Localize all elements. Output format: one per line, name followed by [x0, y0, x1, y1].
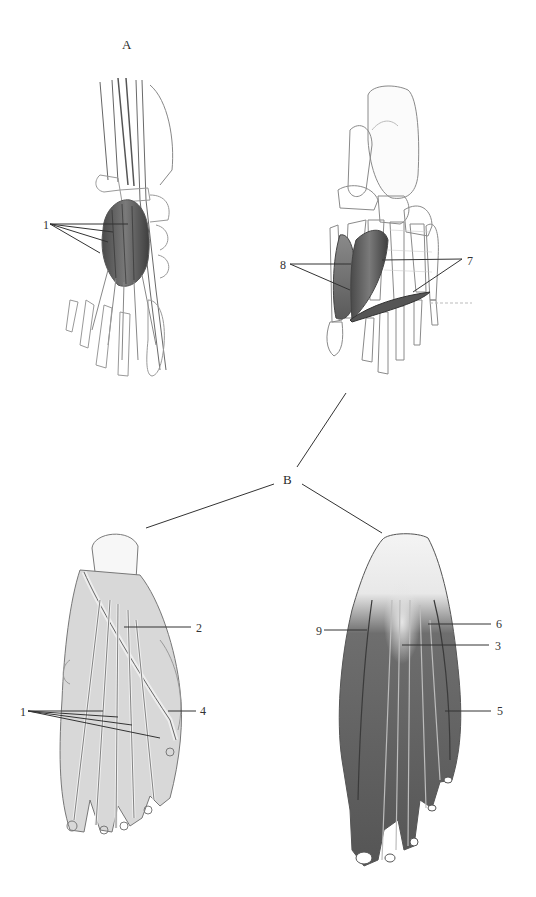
label-5-bottom-right: 5 [497, 705, 503, 717]
label-9-bottom-right: 9 [316, 625, 322, 637]
plantar-foot-bottom-left [60, 534, 181, 834]
section-label-b: B [283, 473, 292, 486]
dorsal-foot-top-left [66, 78, 173, 376]
anatomical-figure [0, 0, 536, 897]
leader-line [302, 484, 382, 533]
label-8-top-right: 8 [280, 259, 286, 271]
leader-line [146, 484, 274, 528]
leader-line [297, 393, 346, 467]
label-1-bottom-left: 1 [20, 706, 26, 718]
label-1-top-left: 1 [43, 219, 49, 231]
leader-line [50, 224, 108, 242]
label-7-top-right: 7 [467, 255, 473, 267]
section-label-a: A [122, 38, 131, 51]
label-2-bottom-left: 2 [196, 622, 202, 634]
leader-line [382, 259, 462, 260]
label-6-bottom-right: 6 [496, 618, 502, 630]
plantar-foot-top-right [327, 86, 472, 374]
plantar-foot-bottom-right [339, 534, 461, 866]
label-3-bottom-right: 3 [495, 640, 501, 652]
label-4-bottom-left: 4 [200, 705, 206, 717]
leader-line [50, 224, 100, 253]
